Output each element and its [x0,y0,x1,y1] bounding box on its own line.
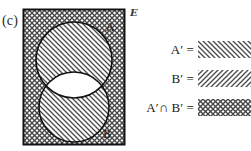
set-a-label: A [106,20,115,34]
legend-item-a-intersect-b-complement: A′∩ B′ = [130,94,251,120]
legend-item-a-complement: A′ = [130,36,251,62]
venn-diagram-svg: A B [22,8,126,146]
legend: A′ = B′ = [130,36,251,126]
figure-part-label: (c) [2,14,18,28]
legend-swatch-diagonal-backslash [198,41,251,58]
legend-label-a-complement: A′ = [171,43,198,56]
legend-label-b-complement: B′ = [172,72,199,85]
figure-container: (c) [0,0,251,151]
set-b-label: B [103,127,111,141]
legend-swatch-crosshatch [198,99,251,116]
venn-diagram: A B E [22,8,126,146]
legend-swatch-diagonal-slash [198,70,251,87]
script-e-universal-set-icon: E [130,8,138,18]
legend-label-a-intersect-b-complement: A′∩ B′ = [146,101,198,114]
legend-item-b-complement: B′ = [130,65,251,91]
